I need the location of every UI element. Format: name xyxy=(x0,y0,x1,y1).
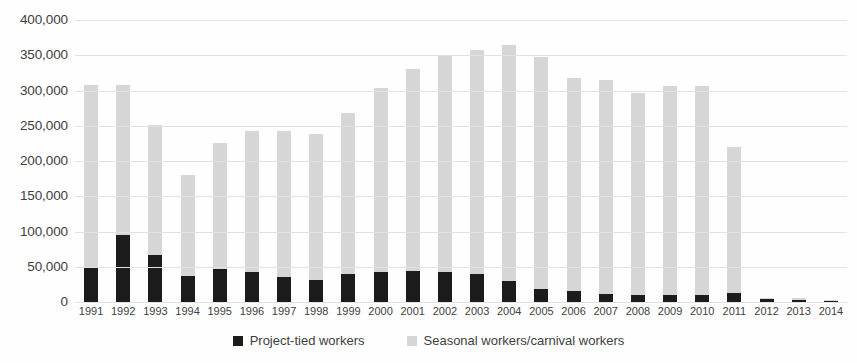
bar-segment-project-tied[interactable] xyxy=(534,289,548,302)
bar-segment-project-tied[interactable] xyxy=(341,274,355,302)
bar-segment-seasonal[interactable] xyxy=(727,147,741,293)
y-axis: 050,000100,000150,000200,000250,000300,0… xyxy=(0,0,68,363)
bar-segment-seasonal[interactable] xyxy=(695,86,709,295)
stacked-bar-chart: 050,000100,000150,000200,000250,000300,0… xyxy=(0,0,857,363)
legend-item-project-tied[interactable]: Project-tied workers xyxy=(233,333,365,348)
bar-segment-seasonal[interactable] xyxy=(502,45,516,281)
legend-label: Project-tied workers xyxy=(250,333,365,348)
bar-segment-seasonal[interactable] xyxy=(277,131,291,276)
bar-segment-project-tied[interactable] xyxy=(406,271,420,302)
gridline xyxy=(75,161,847,162)
bar-segment-project-tied[interactable] xyxy=(631,295,645,302)
x-axis-tick-label: 2014 xyxy=(811,305,851,318)
gridline xyxy=(75,302,847,303)
bar-segment-seasonal[interactable] xyxy=(438,56,452,272)
bar-segment-project-tied[interactable] xyxy=(727,293,741,302)
plot-area xyxy=(75,20,847,302)
bar-segment-seasonal[interactable] xyxy=(148,125,162,255)
gridline xyxy=(75,267,847,268)
bar-segment-project-tied[interactable] xyxy=(245,272,259,302)
bar-segment-project-tied[interactable] xyxy=(663,295,677,302)
chart-legend: Project-tied workers Seasonal workers/ca… xyxy=(0,333,857,348)
bar-segment-seasonal[interactable] xyxy=(309,134,323,281)
y-axis-tick-label: 300,000 xyxy=(0,84,68,98)
bar-segment-project-tied[interactable] xyxy=(470,274,484,302)
bar-segment-project-tied[interactable] xyxy=(502,281,516,302)
legend-label: Seasonal workers/carnival workers xyxy=(424,333,625,348)
gridline xyxy=(75,126,847,127)
bar-segment-project-tied[interactable] xyxy=(277,277,291,302)
y-axis-tick-label: 150,000 xyxy=(0,189,68,203)
bar-segment-project-tied[interactable] xyxy=(695,295,709,302)
bar-segment-project-tied[interactable] xyxy=(84,267,98,302)
black-square-marker-icon xyxy=(233,336,243,346)
bar-segment-seasonal[interactable] xyxy=(631,93,645,295)
y-axis-tick-label: 200,000 xyxy=(0,154,68,168)
bar-segment-seasonal[interactable] xyxy=(406,69,420,271)
bar-segment-project-tied[interactable] xyxy=(148,255,162,302)
gridline xyxy=(75,91,847,92)
bar-segment-project-tied[interactable] xyxy=(374,272,388,302)
y-axis-tick-label: 0 xyxy=(0,295,68,309)
y-axis-tick-label: 350,000 xyxy=(0,48,68,62)
gray-square-marker-icon xyxy=(407,336,417,346)
y-axis-tick-label: 250,000 xyxy=(0,119,68,133)
gridline xyxy=(75,55,847,56)
bar-segment-seasonal[interactable] xyxy=(84,85,98,267)
bar-segment-seasonal[interactable] xyxy=(599,80,613,294)
bar-segment-seasonal[interactable] xyxy=(663,86,677,295)
bar-segment-project-tied[interactable] xyxy=(567,291,581,302)
gridline xyxy=(75,196,847,197)
x-axis: 1991199219931994199519961997199819992000… xyxy=(75,305,847,323)
bar-segment-project-tied[interactable] xyxy=(116,235,130,302)
bar-segment-seasonal[interactable] xyxy=(374,88,388,273)
bar-segment-seasonal[interactable] xyxy=(245,131,259,271)
bar-segment-project-tied[interactable] xyxy=(309,280,323,302)
bar-segment-seasonal[interactable] xyxy=(567,78,581,292)
y-axis-tick-label: 50,000 xyxy=(0,260,68,274)
bar-segment-project-tied[interactable] xyxy=(599,294,613,302)
bar-segment-seasonal[interactable] xyxy=(181,175,195,276)
legend-item-seasonal[interactable]: Seasonal workers/carnival workers xyxy=(407,333,625,348)
bar-segment-project-tied[interactable] xyxy=(213,269,227,302)
bar-segment-project-tied[interactable] xyxy=(438,272,452,302)
gridline xyxy=(75,232,847,233)
y-axis-tick-label: 100,000 xyxy=(0,225,68,239)
bar-segment-seasonal[interactable] xyxy=(341,113,355,274)
gridline xyxy=(75,20,847,21)
y-axis-tick-label: 400,000 xyxy=(0,13,68,27)
bar-segment-seasonal[interactable] xyxy=(116,85,130,235)
bar-segment-seasonal[interactable] xyxy=(213,143,227,268)
bar-segment-seasonal[interactable] xyxy=(534,57,548,290)
bar-segment-project-tied[interactable] xyxy=(181,276,195,302)
